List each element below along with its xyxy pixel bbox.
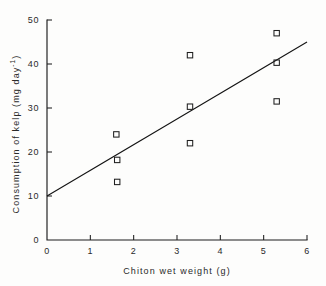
data-point: [274, 31, 279, 36]
y-tick-label: 20: [28, 147, 39, 157]
x-tick-label: 1: [88, 246, 94, 256]
y-tick-label: 40: [28, 59, 39, 69]
data-point: [187, 141, 192, 146]
data-point: [115, 179, 120, 184]
data-point: [114, 132, 119, 137]
scatter-plot-figure: 012345601020304050Chiton wet weight (g)C…: [0, 0, 326, 286]
x-tick-label: 3: [174, 246, 180, 256]
y-tick-label: 10: [28, 191, 39, 201]
x-tick-label: 0: [44, 246, 50, 256]
x-axis-ticks: 0123456: [44, 235, 310, 256]
y-tick-label: 0: [33, 235, 39, 245]
axis-lines: [47, 20, 307, 240]
data-point: [274, 99, 279, 104]
y-axis-ticks: 01020304050: [28, 15, 52, 245]
x-tick-label: 4: [218, 246, 224, 256]
y-tick-label: 50: [28, 15, 39, 25]
data-point: [187, 104, 192, 109]
regression-line: [47, 42, 307, 196]
x-tick-label: 5: [261, 246, 267, 256]
data-point: [115, 157, 120, 162]
x-axis-title: Chiton wet weight (g): [123, 266, 231, 276]
y-tick-label: 30: [28, 103, 39, 113]
data-point: [187, 53, 192, 58]
x-tick-label: 2: [131, 246, 137, 256]
y-axis-title: Consumption of kelp (mg day-1): [9, 55, 21, 214]
plot-canvas: 012345601020304050Chiton wet weight (g)C…: [0, 0, 326, 286]
x-tick-label: 6: [304, 246, 310, 256]
